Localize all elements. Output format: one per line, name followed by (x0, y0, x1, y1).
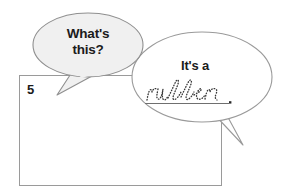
question-text: What's this? (50, 26, 126, 57)
worksheet-scene: 5 It's a (0, 0, 283, 194)
question-bubble[interactable] (0, 0, 283, 194)
